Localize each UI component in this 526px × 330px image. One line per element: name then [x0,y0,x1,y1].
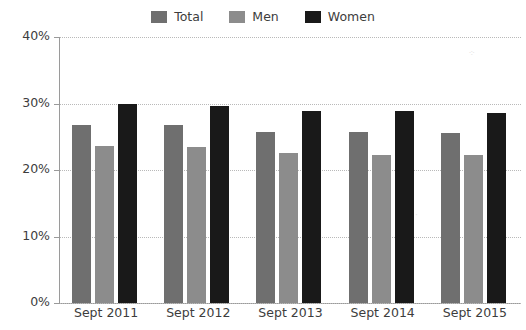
y-axis-tick [54,303,60,304]
legend-swatch-icon [151,11,167,23]
y-axis-tick-label: 40% [2,30,50,43]
bar-men-sept-2014[interactable] [372,155,391,303]
legend-item-total[interactable]: Total [151,11,203,24]
bar-women-sept-2014[interactable] [395,111,414,303]
x-axis-tick-label: Sept 2015 [429,305,521,321]
x-axis-tick-label: Sept 2012 [152,305,244,321]
y-axis-labels: 0%10%20%30%40% [0,0,50,330]
bar-group [152,37,244,303]
bar-women-sept-2015[interactable] [487,113,506,303]
bar-group [337,37,429,303]
bar-total-sept-2011[interactable] [72,125,91,303]
bar-women-sept-2013[interactable] [302,111,321,303]
y-axis-tick [54,37,60,38]
x-axis-labels: Sept 2011Sept 2012Sept 2013Sept 2014Sept… [60,305,521,327]
bar-total-sept-2015[interactable] [441,133,460,303]
legend-swatch-icon [305,11,321,23]
x-axis-tick-label: Sept 2014 [337,305,429,321]
bar-men-sept-2013[interactable] [279,153,298,303]
legend-label: Men [252,11,278,24]
y-axis-tick-label: 30% [2,97,50,110]
bar-total-sept-2012[interactable] [164,125,183,303]
y-axis-tick [54,104,60,105]
bar-total-sept-2014[interactable] [349,132,368,303]
y-axis-tick-label: 10% [2,230,50,243]
legend-swatch-icon [229,11,245,23]
legend-item-men[interactable]: Men [229,11,278,24]
legend-label: Total [174,11,203,24]
x-axis-tick-label: Sept 2013 [244,305,336,321]
bar-group [244,37,336,303]
chart-legend: TotalMenWomen [0,6,526,28]
bar-women-sept-2011[interactable] [118,104,137,304]
plot-area [60,37,521,303]
y-axis-tick-label: 0% [2,296,50,309]
y-axis-tick [54,237,60,238]
bar-chart: TotalMenWomen 0%10%20%30%40% Sept 2011Se… [0,0,526,330]
x-axis-tick-label: Sept 2011 [60,305,152,321]
bar-men-sept-2012[interactable] [187,147,206,303]
legend-item-women[interactable]: Women [305,11,375,24]
y-axis-tick-label: 20% [2,163,50,176]
bar-group [429,37,521,303]
bar-men-sept-2011[interactable] [95,146,114,303]
bar-men-sept-2015[interactable] [464,155,483,303]
gridline [60,303,521,304]
y-axis-tick [54,170,60,171]
bar-group [60,37,152,303]
bar-women-sept-2012[interactable] [210,106,229,304]
bar-total-sept-2013[interactable] [256,132,275,303]
legend-label: Women [328,11,375,24]
